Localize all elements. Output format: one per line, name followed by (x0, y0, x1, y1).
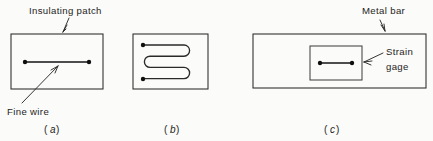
panel-b: ( b ) (133, 34, 208, 135)
fine-wire-leader (22, 66, 58, 103)
metal-bar-arrowhead (381, 24, 385, 31)
grid-terminal-top (141, 43, 145, 47)
strain-gage-arrowhead (364, 61, 372, 65)
gage-terminal-left (318, 61, 322, 65)
strain-gage-label-line2: gage (386, 61, 409, 72)
caption-c-letter: c (330, 124, 335, 135)
fine-wire-label: Fine wire (7, 106, 49, 117)
figure-canvas: Insulating patch Fine wire ( a ) (0, 0, 433, 141)
caption-a-close: ) (56, 124, 60, 135)
strain-gage-figure: Insulating patch Fine wire ( a ) (0, 0, 433, 141)
panel-a: Insulating patch Fine wire ( a ) (7, 5, 103, 135)
caption-b-close: ) (176, 124, 180, 135)
wire-terminal-right (87, 60, 91, 64)
serpentine-grid-trace (143, 45, 190, 79)
gage-terminal-right (350, 61, 354, 65)
caption-c-close: ) (336, 124, 340, 135)
wire-terminal-left (23, 60, 27, 64)
strain-gage-leader (364, 53, 383, 62)
panel-a-caption: ( a ) (44, 124, 60, 135)
panel-b-caption: ( b ) (164, 124, 180, 135)
caption-a-open: ( (44, 124, 48, 135)
strain-gage-label-line1: Strain (386, 46, 413, 57)
grid-terminal-bottom (141, 77, 145, 81)
caption-c-open: ( (324, 124, 328, 135)
insulating-patch-arrowhead (63, 25, 67, 32)
panel-c-caption: ( c ) (324, 124, 340, 135)
panel-c: Metal bar Strain gage ( c ) (253, 5, 426, 135)
insulating-patch-label: Insulating patch (29, 5, 102, 16)
caption-b-open: ( (164, 124, 168, 135)
metal-bar-label: Metal bar (362, 5, 406, 16)
